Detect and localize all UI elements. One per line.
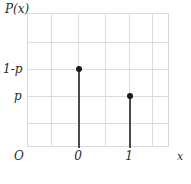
stem-line-x1 (129, 96, 131, 148)
gridline-horizontal (28, 69, 168, 70)
x-tick-label-1: 1 (125, 150, 133, 162)
y-axis-label: P(x) (5, 3, 29, 15)
gridline-vertical (51, 14, 52, 146)
gridline-horizontal (28, 123, 168, 124)
origin-label: O (14, 150, 24, 162)
gridline-vertical (152, 14, 153, 146)
bernoulli-pmf-chart: P(x) 1-p p 0 1 O x (0, 0, 191, 184)
gridline-horizontal (28, 42, 168, 43)
y-tick-label-p: p (14, 90, 22, 102)
y-tick-label-1-minus-p: 1-p (3, 63, 22, 75)
x-tick-label-0: 0 (74, 150, 82, 162)
plot-area (27, 13, 169, 147)
gridline-horizontal (28, 96, 168, 97)
x-axis-label: x (177, 151, 183, 162)
gridline-vertical (105, 14, 106, 146)
stem-line-x0 (78, 69, 80, 148)
data-point-x0 (76, 66, 82, 72)
data-point-x1 (127, 93, 133, 99)
